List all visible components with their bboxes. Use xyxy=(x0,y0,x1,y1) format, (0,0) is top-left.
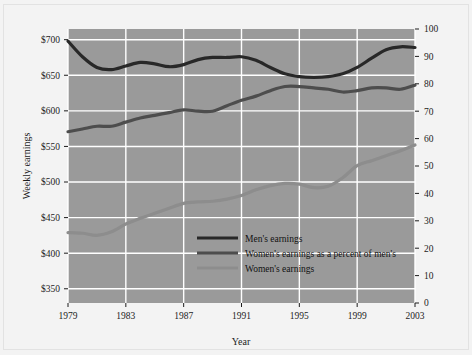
tick-label-bottom: 2003 xyxy=(406,311,425,321)
tick-label-bottom: 1987 xyxy=(174,311,193,321)
tick-label-right: 40 xyxy=(424,189,434,199)
tick-label-right: 30 xyxy=(424,216,434,226)
x-axis-title: Year xyxy=(232,336,251,347)
tick-label-left: $600 xyxy=(41,106,60,116)
legend-label-1: Men's earnings xyxy=(245,234,303,244)
tick-label-right: 60 xyxy=(424,134,434,144)
tick-label-left: $700 xyxy=(41,35,60,45)
tick-label-left: $550 xyxy=(41,142,60,152)
right-axis-tick-labels: 0102030405060708090100 xyxy=(424,24,439,308)
legend-label-2: Women's earnings as a percent of men's xyxy=(245,249,396,259)
tick-label-bottom: 1995 xyxy=(290,311,309,321)
tick-label-left: $450 xyxy=(41,213,60,223)
tick-label-bottom: 1991 xyxy=(232,311,251,321)
line-chart: $350$400$450$500$550$600$650$700 0102030… xyxy=(0,0,472,355)
tick-label-right: 50 xyxy=(424,161,434,171)
tick-label-left: $500 xyxy=(41,177,60,187)
tick-label-bottom: 1979 xyxy=(59,311,78,321)
tick-label-right: 80 xyxy=(424,79,434,89)
tick-label-left: $350 xyxy=(41,284,60,294)
tick-label-right: 100 xyxy=(424,24,439,34)
tick-label-left: $400 xyxy=(41,249,60,259)
tick-label-bottom: 1999 xyxy=(348,311,367,321)
left-axis-tick-labels: $350$400$450$500$550$600$650$700 xyxy=(41,35,60,294)
bottom-axis-ticks xyxy=(68,303,415,307)
tick-label-left: $650 xyxy=(41,71,60,81)
chart-figure: $350$400$450$500$550$600$650$700 0102030… xyxy=(0,0,472,355)
legend-label-3: Women's earnings xyxy=(245,264,315,274)
tick-label-right: 20 xyxy=(424,244,434,254)
tick-label-right: 90 xyxy=(424,52,434,62)
y-axis-title: Weekly earnings xyxy=(21,133,32,200)
tick-label-right: 70 xyxy=(424,107,434,117)
tick-label-right: 0 xyxy=(424,298,429,308)
bottom-axis-tick-labels: 1979198319871991199519992003 xyxy=(59,311,425,321)
tick-label-bottom: 1983 xyxy=(116,311,135,321)
tick-label-right: 10 xyxy=(424,271,434,281)
